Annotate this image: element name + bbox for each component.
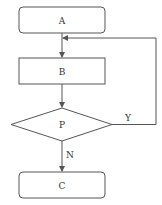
node-a: A <box>19 7 105 33</box>
flowchart: A B P Y N C <box>0 0 162 205</box>
node-p: P <box>11 108 112 141</box>
node-c: C <box>19 172 105 198</box>
node-c-label: C <box>59 181 66 191</box>
edge-no-label: N <box>66 150 74 160</box>
node-b-label: B <box>59 67 66 77</box>
node-p-label: P <box>59 120 65 130</box>
edge-yes-label: Y <box>124 113 132 123</box>
node-b: B <box>19 58 105 84</box>
node-a-label: A <box>58 16 66 26</box>
